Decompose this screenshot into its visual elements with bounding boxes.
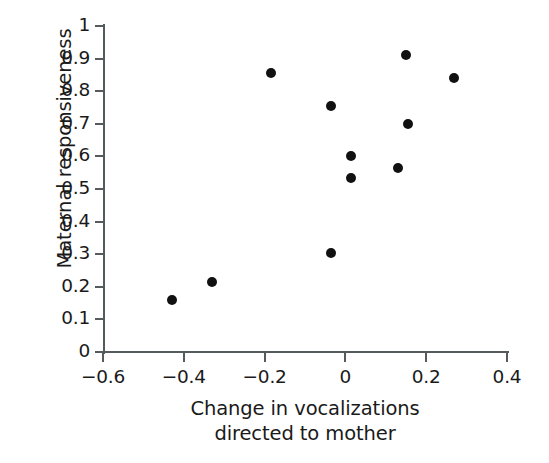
x-axis-tick [264, 353, 266, 362]
y-axis-tick-label: 0.5 [30, 177, 90, 198]
x-axis-tick [102, 353, 104, 362]
x-axis-label-line2: directed to mother [103, 421, 507, 446]
y-axis-tick-label: 1 [30, 14, 90, 35]
x-axis-tick-label: −0.4 [139, 366, 229, 387]
x-axis-tick [344, 353, 346, 362]
y-axis-tick-label: 0.3 [30, 242, 90, 263]
y-axis-tick [95, 25, 103, 27]
y-axis-tick [95, 221, 103, 223]
scatter-plot-figure: Maternal responsiveness Change in vocali… [0, 0, 549, 463]
x-axis-tick-label: −0.6 [58, 366, 148, 387]
data-point [393, 163, 403, 173]
y-axis-tick [95, 318, 103, 320]
y-axis-tick [95, 58, 103, 60]
x-axis-tick [506, 353, 508, 362]
x-axis-tick [425, 353, 427, 362]
x-axis-tick-label: −0.2 [220, 366, 310, 387]
x-axis-label: Change in vocalizations directed to moth… [103, 396, 507, 446]
y-axis-tick-label: 0 [30, 340, 90, 361]
x-axis-tick-label: 0.2 [381, 366, 471, 387]
x-axis-tick [183, 353, 185, 362]
y-axis-tick-label: 0.9 [30, 47, 90, 68]
y-axis-tick-label: 0.8 [30, 79, 90, 100]
data-point [326, 248, 336, 258]
y-axis-tick [95, 188, 103, 190]
data-point [403, 119, 413, 129]
x-axis-tick-label: 0 [300, 366, 390, 387]
y-axis-tick [95, 155, 103, 157]
y-axis-tick-label: 0.1 [30, 307, 90, 328]
x-axis-tick-label: 0.4 [462, 366, 549, 387]
y-axis-tick-label: 0.4 [30, 210, 90, 231]
y-axis-tick-label: 0.2 [30, 275, 90, 296]
plot-area [103, 26, 507, 352]
x-axis-label-line1: Change in vocalizations [190, 397, 419, 420]
y-axis-tick [95, 123, 103, 125]
y-axis-tick-label: 0.7 [30, 112, 90, 133]
data-point [266, 68, 276, 78]
y-axis-tick [95, 253, 103, 255]
y-axis-tick [95, 286, 103, 288]
y-axis-tick-label: 0.6 [30, 144, 90, 165]
y-axis-tick [95, 90, 103, 92]
data-point [167, 295, 177, 305]
data-point [207, 277, 217, 287]
